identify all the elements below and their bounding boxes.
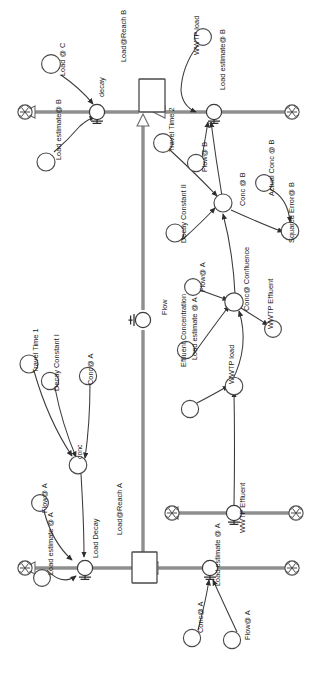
cloud-decay-sink [18, 105, 32, 119]
connector-wwtpeffvalve-to-wwtpload [234, 392, 235, 506]
label-conc-at-a-bottom: Conc@ A [196, 602, 205, 633]
stock-load-at-reach-b[interactable] [139, 79, 165, 112]
label-decay: decay [97, 77, 106, 97]
valve-load-estimate-b[interactable] [206, 104, 221, 124]
label-flow-at-a-bottom: Flow@ A [243, 610, 252, 640]
converter-effluent-concentration[interactable] [181, 400, 198, 417]
label-load-estimate-at-a-btm: Load estimate @ A [213, 523, 222, 586]
cloud-wwtp-effluent-right [289, 506, 303, 520]
label-wwtp-load-b: WWTP load [192, 16, 201, 55]
valve-load-decay[interactable] [77, 560, 92, 580]
stock-flow-diagram: Load @ C Load estimate@ B decay Load@Rea… [0, 0, 319, 682]
label-load-estimate-at-a-mid: Load estimate @ A [190, 297, 199, 360]
label-conc-at-confluence: Conc@ Confluence [242, 247, 251, 311]
label-flow-at-a-left: Flow@ A [40, 483, 49, 513]
label-actual-conc-at-b: Actual Conc @ B [267, 140, 276, 196]
label-load-at-reach-a: Load@Reach A [115, 483, 124, 535]
stock-load-at-reach-a[interactable] [132, 552, 157, 583]
label-decay-constant-i: Decay Constant I [52, 334, 61, 391]
label-load-estimate-at-a-left: Load estimate @ A [46, 512, 55, 575]
label-wwtp-load-mid: WWTP load [227, 345, 236, 384]
label-conc-at-a-top: Conc@ A [86, 354, 95, 385]
label-flow-at-b: Flow@ B [200, 142, 209, 172]
cloud-wwtp-effluent-left [165, 506, 179, 520]
label-travel-time-1: Travel Time 1 [31, 329, 40, 374]
label-load-estimate-at-b-v: Load estimate@ B [218, 29, 227, 90]
cloud-load-decay-sink [18, 561, 32, 575]
diagram-canvas: Load @ C Load estimate@ B decay Load@Rea… [0, 0, 319, 682]
valve-decay[interactable] [89, 104, 104, 124]
label-squared-error-at-b: Squared Error@ B [287, 182, 296, 243]
label-travel-time-2: Travel Time 2 [167, 108, 176, 153]
converter-conc-at-confluence[interactable] [225, 293, 243, 311]
label-wwtp-effluent-valve: WWTP Effluent [238, 483, 247, 533]
label-effluent-concentration: Effluent Concentration [179, 294, 188, 367]
label-wwtp-effluent-conv: WWTP Effluent [266, 279, 275, 329]
label-conc-at-b: Conc @ B [238, 172, 247, 206]
label-flow-at-a-mid: Flow@ A [198, 262, 207, 292]
converter-flow-at-a-bottom[interactable] [223, 631, 240, 648]
label-conc: conc [76, 444, 83, 459]
label-load-at-reach-b: Load@Reach B [119, 10, 128, 62]
label-flow-valve: Flow [160, 299, 169, 315]
cloud-load-estimate-a-source [285, 561, 299, 575]
cloud-load-estimate-b-source [285, 105, 299, 119]
label-load-estimate-at-b-c: Load estimate@ B [54, 99, 63, 160]
label-load-decay: Load Decay [91, 518, 100, 558]
label-load-at-c: Load @ C [58, 42, 67, 76]
converter-conc-at-b[interactable] [214, 194, 232, 212]
label-decay-constant-ii: Decay Constant II [179, 184, 188, 243]
converter-load-estimate-at-b[interactable] [37, 153, 55, 171]
